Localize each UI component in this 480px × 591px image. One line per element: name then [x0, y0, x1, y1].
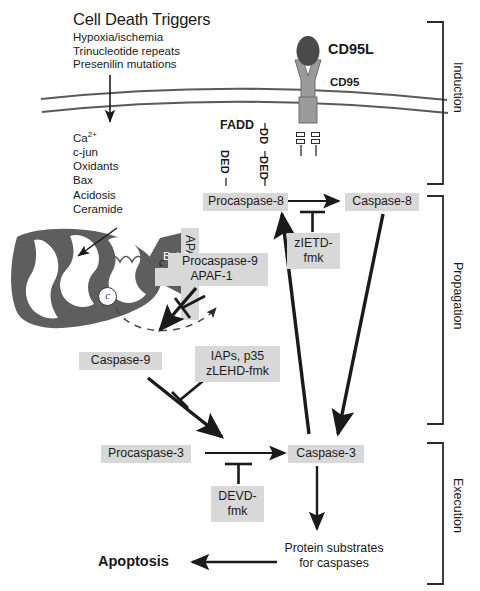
- mediator-item-5: Ceramide: [73, 202, 123, 216]
- dd-box-b: [296, 139, 305, 144]
- phase-label-induction: Induction: [451, 62, 465, 113]
- induction-bracket: [427, 22, 443, 184]
- node-caspase-9[interactable]: Caspase-9: [79, 352, 162, 370]
- cytochrome-c-release-path: [116, 308, 216, 331]
- fadd-dd-label: DD: [258, 128, 270, 144]
- receptor-dd-stems: [301, 145, 316, 156]
- zietd-line-1: zIETD-: [292, 236, 335, 251]
- dd-box-a: [296, 132, 305, 137]
- mediator-list: Ca2+ c-jun Oxidants Bax Acidosis Ceramid…: [73, 128, 123, 216]
- phase-brackets: [427, 22, 443, 584]
- cd95l-ligand-shape: [297, 36, 320, 66]
- inhibitor-zietd-fmk[interactable]: zIETD- fmk: [287, 233, 340, 269]
- caspase9-to-caspase3-arrow: [148, 378, 222, 437]
- phase-label-execution: Execution: [451, 478, 465, 533]
- iaps-line-2: zLEHD-fmk: [200, 364, 275, 379]
- mediator-item-3: Bax: [73, 173, 123, 187]
- figure-title: Cell Death Triggers: [73, 10, 210, 29]
- inhibitor-iaps-zlehd[interactable]: IAPs, p35 zLEHD-fmk: [195, 346, 280, 382]
- apoptosis-pathway-figure: Cell Death Triggers Hypoxia/ischemia Tri…: [0, 0, 480, 591]
- node-procaspase-3[interactable]: Procaspase-3: [101, 445, 191, 463]
- node-apoptosis: Apoptosis: [98, 553, 169, 569]
- iaps-inhibition-bar-upper: [175, 296, 205, 318]
- mitochondrion-shape: [11, 229, 161, 328]
- cytochrome-c-bound-label: c: [159, 255, 164, 269]
- procaspase8-ded-label: DED: [219, 150, 231, 174]
- trigger-list: Hypoxia/ischemia Trinucleotide repeats P…: [73, 31, 180, 72]
- cytochrome-c-circle: c: [98, 287, 117, 306]
- inhibitor-devd-fmk[interactable]: DEVD- fmk: [211, 486, 264, 522]
- receptor-dd-left: [296, 132, 305, 144]
- devd-line-2: fmk: [216, 504, 259, 519]
- mediator-item-2: Oxidants: [73, 159, 123, 173]
- cd95-label: CD95: [330, 76, 359, 88]
- mediator-item-4: Acidosis: [73, 188, 123, 202]
- caspase8-to-caspase3-arrow: [338, 214, 383, 434]
- trigger-item-2: Presenilin mutations: [73, 58, 180, 72]
- execution-bracket: [427, 443, 443, 584]
- trigger-item-0: Hypoxia/ischemia: [73, 31, 180, 45]
- node-procaspase-9-line-2[interactable]: APAF-1: [155, 268, 268, 286]
- node-caspase-3[interactable]: Caspase-3: [288, 445, 364, 463]
- ceramide-to-mitochondrion-arrow: [78, 228, 117, 256]
- node-protein-substrates: Protein substrates for caspases: [270, 541, 398, 570]
- cd95-receptor-shape: [295, 60, 321, 123]
- substrates-line-1: Protein substrates: [270, 541, 398, 556]
- zietd-line-2: fmk: [292, 251, 335, 266]
- receptor-dd-right: [311, 132, 320, 144]
- node-caspase-8[interactable]: Caspase-8: [345, 193, 419, 211]
- phase-label-propagation: Propagation: [451, 262, 465, 329]
- trigger-item-1: Trinucleotide repeats: [73, 45, 180, 59]
- dd-box-d: [311, 139, 320, 144]
- propagation-bracket: [427, 196, 443, 424]
- iaps-inhibition-bar-lower: [172, 381, 203, 408]
- dd-box-c: [311, 132, 320, 137]
- mediator-item-calcium: Ca2+: [73, 128, 123, 145]
- zietd-inhibition-bar: [300, 212, 325, 232]
- devd-line-1: DEVD-: [216, 489, 259, 504]
- iaps-line-1: IAPs, p35: [200, 349, 275, 364]
- devd-inhibition-bar: [225, 464, 252, 484]
- fadd-label: FADD: [220, 118, 254, 132]
- mediator-item-1: c-jun: [73, 145, 123, 159]
- fadd-ded-label: DED: [258, 156, 270, 180]
- calcium-base: Ca: [73, 132, 88, 144]
- procaspase9-to-caspase9-arrow: [160, 288, 196, 330]
- calcium-superscript: 2+: [88, 130, 97, 139]
- cd95l-label: CD95L: [328, 41, 374, 57]
- node-procaspase-8[interactable]: Procaspase-8: [203, 193, 288, 211]
- plasma-membrane: [41, 89, 448, 113]
- substrates-line-2: for caspases: [270, 556, 398, 571]
